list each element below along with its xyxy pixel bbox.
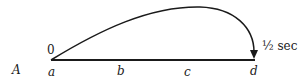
point-a-label: a (48, 66, 55, 78)
start-time-label: 0 (47, 44, 55, 56)
trajectory-curve (51, 7, 254, 60)
row-label: A (12, 64, 21, 76)
point-d-label: d (250, 65, 258, 77)
end-time-label: ½ sec (262, 40, 297, 52)
diagram-graphic (0, 0, 304, 82)
point-b-label: b (117, 65, 125, 77)
arrowhead-icon (250, 50, 258, 59)
point-c-label: c (184, 66, 191, 78)
